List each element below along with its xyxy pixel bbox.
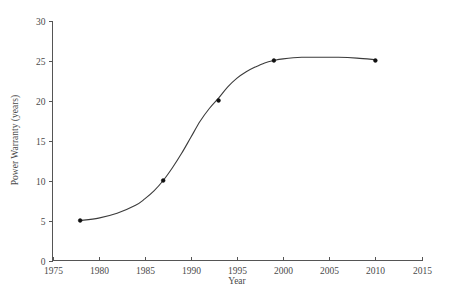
data-point-marker: [78, 219, 82, 223]
x-tick-label: 1975: [44, 266, 63, 276]
x-tick-label: 1985: [136, 266, 155, 276]
y-tick-label-group: 051015202530: [36, 17, 46, 267]
y-tick-label: 30: [36, 17, 46, 27]
x-tick-label: 2015: [413, 266, 432, 276]
x-tick-label: 1980: [90, 266, 109, 276]
y-tick-group: [49, 22, 53, 262]
chart-figure: 051015202530 197519801985199019952000200…: [0, 0, 454, 299]
x-tick-label: 1990: [182, 266, 201, 276]
line-chart: 051015202530 197519801985199019952000200…: [0, 0, 454, 299]
axes: [53, 21, 422, 261]
y-tick-label: 20: [36, 97, 46, 107]
x-tick-label: 2000: [274, 266, 293, 276]
y-tick-label: 25: [36, 57, 46, 67]
data-point-marker: [161, 179, 165, 183]
x-tick-label-group: 197519801985199019952000200520102015: [44, 266, 432, 276]
fitted-sigmoid-curve: [80, 57, 375, 220]
data-point-marker: [272, 59, 276, 63]
x-tick-label: 1995: [228, 266, 247, 276]
y-tick-label: 10: [36, 177, 46, 187]
x-axis-title: Year: [228, 276, 246, 286]
y-tick-label: 15: [36, 137, 46, 147]
data-point-marker: [373, 59, 377, 63]
data-point-marker: [217, 99, 221, 103]
x-tick-label: 2010: [366, 266, 385, 276]
y-tick-label: 5: [41, 217, 46, 227]
x-tick-label: 2005: [320, 266, 339, 276]
x-tick-group: [54, 257, 423, 261]
data-point-group: [78, 59, 377, 223]
y-axis-title: Power Warranty (years): [10, 95, 21, 185]
